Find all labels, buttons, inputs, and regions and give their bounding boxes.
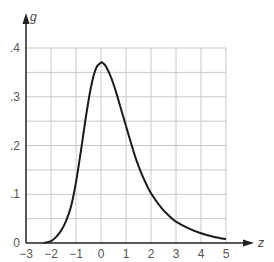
x-tick-label: 1: [123, 247, 130, 261]
y-tick-label: .1: [10, 187, 20, 201]
x-tick-label: 2: [148, 247, 155, 261]
y-axis-label: g: [30, 10, 37, 24]
y-tick-labels: 0.1.2.3.4: [10, 41, 20, 250]
grid: [26, 48, 226, 243]
x-tick-label: −3: [19, 247, 33, 261]
y-tick-label: .2: [10, 139, 20, 153]
x-tick-labels: −3−2−1012345: [19, 247, 230, 261]
x-tick-label: 5: [223, 247, 230, 261]
chart: −3−2−1012345 0.1.2.3.4 g z: [0, 0, 274, 262]
x-axis-arrow-icon: [243, 240, 254, 247]
x-tick-label: −1: [69, 247, 83, 261]
x-axis-label: z: [257, 236, 264, 250]
y-tick-label: 0: [13, 236, 20, 250]
y-tick-label: .3: [10, 90, 20, 104]
density-curve: [44, 62, 227, 243]
y-axis-arrow-icon: [23, 13, 30, 24]
x-tick-label: −2: [44, 247, 58, 261]
curve-layer: [44, 62, 227, 243]
x-tick-label: 4: [198, 247, 205, 261]
x-tick-label: 0: [98, 247, 105, 261]
y-tick-label: .4: [10, 41, 20, 55]
x-tick-label: 3: [173, 247, 180, 261]
